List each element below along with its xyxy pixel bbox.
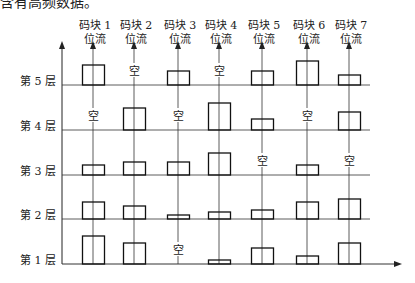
data-block	[297, 202, 319, 219]
empty-label: 空	[257, 154, 268, 168]
empty-label: 空	[173, 243, 184, 257]
data-block	[339, 243, 361, 264]
empty-label: 空	[344, 154, 355, 168]
data-block	[209, 212, 231, 219]
data-block	[297, 61, 319, 85]
data-block	[209, 153, 231, 175]
layered-bitstream-diagram: 空空空空空空空空	[0, 0, 415, 283]
data-block	[168, 215, 190, 219]
data-block	[252, 248, 274, 264]
data-block	[83, 65, 105, 85]
data-block	[124, 206, 146, 219]
data-block	[124, 243, 146, 264]
data-block	[168, 71, 190, 85]
empty-label: 空	[129, 64, 140, 78]
data-block	[168, 162, 190, 175]
data-block	[83, 165, 105, 175]
data-block	[209, 103, 231, 130]
empty-label: 空	[88, 109, 99, 123]
data-block	[252, 119, 274, 130]
data-block	[83, 202, 105, 219]
empty-label: 空	[302, 109, 313, 123]
data-block	[209, 260, 231, 264]
data-block	[83, 236, 105, 264]
data-block	[339, 75, 361, 85]
data-block	[297, 165, 319, 175]
data-block	[252, 210, 274, 219]
empty-label: 空	[214, 64, 225, 78]
data-block	[252, 71, 274, 85]
data-block	[339, 199, 361, 219]
data-block	[124, 108, 146, 130]
empty-label: 空	[173, 109, 184, 123]
data-block	[339, 112, 361, 130]
data-block	[297, 256, 319, 264]
data-block	[124, 162, 146, 175]
